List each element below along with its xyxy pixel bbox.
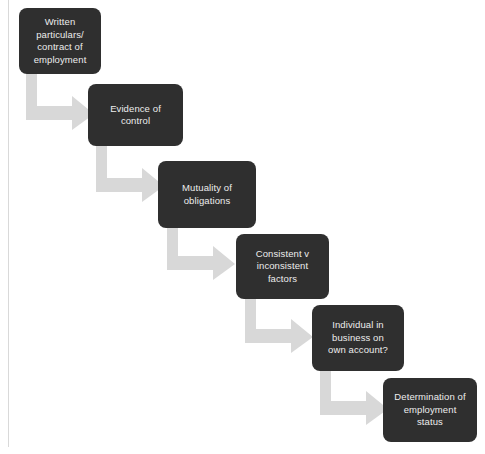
node-label: Individual in business on own account? [328,319,388,357]
left-margin-rule [8,0,9,447]
connector-arrow-3 [167,226,235,280]
node-written-particulars[interactable]: Written particulars/ contract of employm… [19,8,101,74]
connector-arrow-4 [245,297,313,353]
node-evidence-of-control[interactable]: Evidence of control [88,84,183,146]
node-mutuality-of-obligations[interactable]: Mutuality of obligations [158,161,256,228]
connector-arrow-5 [320,369,388,425]
node-determination-of-employment-status[interactable]: Determination of employment status [383,378,477,442]
node-label: Written particulars/ contract of employm… [34,16,87,66]
node-label: Mutuality of obligations [182,182,232,207]
connector-arrow-1 [26,72,94,130]
connector-arrow-2 [96,144,164,202]
node-label: Determination of employment status [394,391,465,429]
node-individual-in-business-on-own-account[interactable]: Individual in business on own account? [312,305,404,371]
node-consistent-v-inconsistent-factors[interactable]: Consistent v inconsistent factors [236,234,329,299]
node-label: Evidence of control [110,103,161,128]
node-label: Consistent v inconsistent factors [256,248,309,286]
flowchart-canvas: Written particulars/ contract of employm… [0,0,485,454]
